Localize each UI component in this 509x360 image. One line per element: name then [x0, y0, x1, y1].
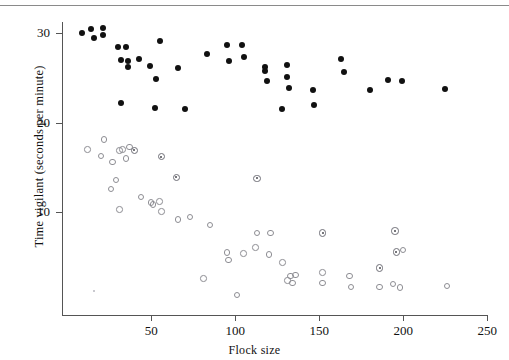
data-point-filled [224, 42, 230, 48]
y-axis-label: Time vigilant (seconds per minute) [33, 42, 46, 272]
data-point-open [267, 230, 274, 237]
data-point-open [254, 230, 261, 237]
data-point-filled [136, 56, 142, 62]
x-tick-label: 200 [383, 324, 423, 337]
x-axis-label: Flock size [0, 344, 509, 356]
data-point-filled [175, 65, 181, 71]
y-tick-label: 30 [10, 26, 50, 39]
data-point-filled [153, 76, 159, 82]
data-point-open [200, 275, 207, 282]
data-point-filled [226, 58, 232, 64]
data-point-open [224, 249, 231, 256]
data-point-filled [123, 44, 129, 50]
data-point-open [289, 280, 296, 287]
top-rule-divider [0, 5, 509, 6]
x-tick-mark [319, 315, 320, 321]
x-tick-label: 150 [299, 324, 339, 337]
data-point-filled [338, 56, 344, 62]
x-tick-mark [235, 315, 236, 321]
data-point-open [319, 269, 326, 276]
x-tick-mark [151, 315, 152, 321]
data-point-open [175, 216, 182, 223]
x-tick-label: 100 [215, 324, 255, 337]
data-point-filled [239, 42, 245, 48]
data-point-filled [204, 51, 210, 57]
data-point-filled [100, 25, 106, 31]
data-point-open [390, 281, 397, 288]
data-point-open [234, 292, 241, 299]
data-point-filled [284, 74, 290, 80]
data-point-filled [367, 87, 373, 93]
data-point-filled [91, 35, 97, 41]
data-point-dotted [319, 229, 327, 237]
data-point-filled [147, 63, 153, 69]
data-point-filled [284, 62, 290, 68]
data-point-dotted [173, 174, 181, 182]
y-tick-mark [56, 33, 62, 34]
data-point-open [319, 280, 326, 287]
data-point-open [266, 251, 273, 258]
data-point-open [123, 155, 130, 162]
data-point-open [279, 259, 286, 266]
data-point-filled [262, 68, 268, 74]
data-point-dotted [131, 147, 139, 155]
data-point-dotted [158, 153, 166, 161]
data-point-filled [157, 38, 163, 44]
data-point-open [240, 250, 247, 257]
data-point-open [376, 284, 383, 291]
scatter-plot-figure: 102030 50100150200250 Flock size Time vi… [0, 0, 509, 360]
data-point-open [187, 214, 194, 221]
data-point-open [98, 153, 105, 160]
y-tick-mark [56, 212, 62, 213]
x-tick-label: 250 [467, 324, 507, 337]
data-point-dotted [393, 248, 401, 256]
data-point-open [108, 186, 115, 193]
data-point-filled [118, 57, 124, 63]
data-point-open [158, 208, 165, 215]
data-point-filled [241, 54, 247, 60]
data-point-filled [286, 85, 292, 91]
data-point-filled [311, 102, 317, 108]
data-point-open [101, 136, 108, 143]
data-point-filled [152, 105, 158, 111]
data-point-filled [125, 58, 131, 64]
data-point-open [119, 146, 126, 153]
x-tick-mark [487, 315, 488, 321]
data-point-filled [79, 30, 85, 36]
data-point-filled [279, 106, 285, 112]
data-point-open [252, 244, 259, 251]
data-point-filled [115, 44, 121, 50]
data-point-open [84, 146, 91, 153]
data-point-open [150, 201, 157, 208]
data-point-open [292, 272, 299, 279]
data-point-open [109, 159, 116, 166]
y-tick-mark [56, 123, 62, 124]
data-point-open [138, 194, 145, 201]
data-point-open [346, 273, 353, 280]
data-point-open [113, 177, 120, 184]
stray-speck [93, 290, 95, 292]
x-axis-line [62, 315, 488, 316]
data-point-dotted [376, 264, 384, 272]
x-tick-mark [403, 315, 404, 321]
data-point-open [348, 284, 355, 291]
y-axis-line [62, 22, 63, 316]
data-point-filled [88, 26, 94, 32]
data-point-dotted [391, 227, 399, 235]
data-point-filled [385, 77, 391, 83]
data-point-open [400, 247, 407, 254]
data-point-filled [182, 106, 188, 112]
x-tick-label: 50 [131, 324, 171, 337]
data-point-filled [399, 78, 405, 84]
data-point-dotted [253, 175, 261, 183]
data-point-filled [442, 86, 448, 92]
data-point-filled [310, 87, 316, 93]
data-point-filled [341, 69, 347, 75]
data-point-open [116, 206, 123, 213]
data-point-open [207, 222, 214, 229]
data-point-open [397, 284, 404, 291]
data-point-filled [125, 64, 131, 70]
data-point-filled [118, 100, 124, 106]
data-point-filled [264, 78, 270, 84]
data-point-open [156, 198, 163, 205]
